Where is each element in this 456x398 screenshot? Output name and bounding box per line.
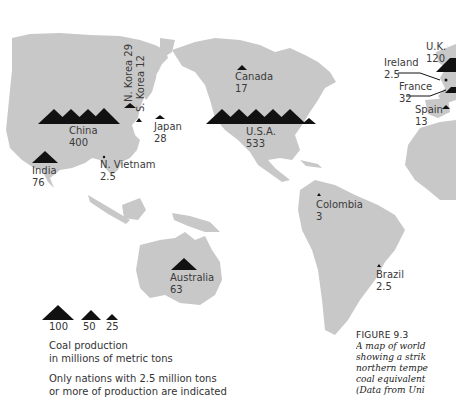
label-brazil: Brazil2.5 bbox=[376, 269, 404, 293]
label-colombia: Colombia3 bbox=[316, 199, 363, 223]
legend-label-25: 25 bbox=[106, 321, 119, 332]
legend-description: Coal production in millions of metric to… bbox=[49, 339, 173, 365]
label-china: China400 bbox=[69, 125, 98, 149]
label-ireland: Ireland2.5 bbox=[384, 57, 419, 81]
label-canada: Canada17 bbox=[235, 71, 273, 95]
marker-japan bbox=[155, 115, 165, 119]
legend-scale-markers bbox=[42, 305, 118, 320]
label-japan: Japan28 bbox=[154, 121, 182, 145]
label-s-korea: S. Korea 12 bbox=[135, 55, 146, 112]
legend-note: Only nations with 2.5 million tons or mo… bbox=[49, 372, 227, 398]
legend-label-100: 100 bbox=[49, 321, 68, 332]
legend-marker-25 bbox=[106, 314, 118, 320]
landmass-africa bbox=[405, 120, 456, 200]
figure-caption: FIGURE 9.3 A map of world showing a stri… bbox=[356, 330, 456, 396]
legend-marker-50 bbox=[81, 310, 101, 320]
label-spain: Spain13 bbox=[415, 104, 443, 128]
figure-number: FIGURE 9.3 bbox=[356, 330, 456, 341]
label-uk: U.K.120 bbox=[426, 41, 446, 65]
landmass-north-america bbox=[172, 38, 336, 182]
marker-n-vietnam bbox=[103, 156, 105, 158]
label-australia: Australia63 bbox=[170, 272, 214, 296]
label-n-vietnam: N. Vietnam2.5 bbox=[100, 159, 156, 183]
label-n-korea: N. Korea 29 bbox=[123, 44, 134, 102]
label-usa: U.S.A.533 bbox=[246, 126, 276, 150]
landmass-borneo bbox=[122, 198, 146, 220]
label-india: India76 bbox=[32, 165, 57, 189]
legend-label-50: 50 bbox=[83, 321, 96, 332]
legend-marker-100 bbox=[42, 305, 74, 320]
landmass-new-guinea bbox=[172, 213, 220, 232]
label-france: France32 bbox=[399, 81, 432, 105]
landmass-caribbean bbox=[300, 160, 322, 168]
